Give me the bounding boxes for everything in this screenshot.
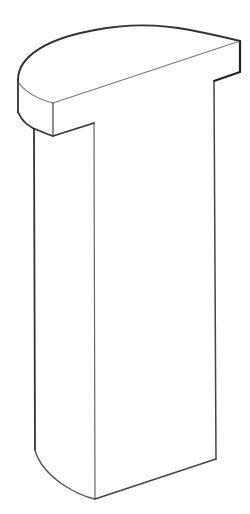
cap-right-bottom-edge (214, 72, 240, 81)
cap-top-left-curve (18, 82, 53, 103)
column-bottom-edge (95, 459, 216, 499)
column-front-edge (94, 123, 95, 499)
column (34, 81, 216, 499)
cap-top-arc (18, 26, 240, 81)
cap-bottom-left-curve (18, 112, 53, 136)
column-right-edge (214, 81, 216, 459)
column-left-edge (34, 129, 35, 450)
cap-front-bottom-edge (53, 123, 94, 136)
isometric-drawing (0, 0, 250, 514)
top-cap (18, 26, 240, 137)
cap-top-diameter-edge (53, 41, 240, 103)
column-bottom-curve (35, 450, 95, 499)
